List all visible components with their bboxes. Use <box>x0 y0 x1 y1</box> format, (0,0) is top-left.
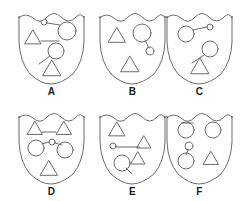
shield-d[interactable]: D <box>11 106 92 201</box>
shield-a[interactable]: A <box>11 6 92 106</box>
shield-label-f: F <box>159 186 240 198</box>
shield-c[interactable]: C <box>159 6 240 106</box>
shield-label-a: A <box>11 86 92 98</box>
shield-drawing-c <box>159 6 240 88</box>
shield-f[interactable]: F <box>159 106 240 201</box>
shield-outline <box>167 114 232 185</box>
shield-outline <box>100 114 165 185</box>
shield-drawing-f <box>159 106 240 188</box>
shield-label-c: C <box>159 86 240 98</box>
shield-drawing-d <box>11 106 92 188</box>
shield-label-d: D <box>11 186 92 198</box>
shield-drawing-a <box>11 6 92 88</box>
shield-outline <box>100 14 165 85</box>
shield-outline <box>19 114 84 185</box>
shield-grid-canvas: ABCDEF <box>0 0 243 201</box>
